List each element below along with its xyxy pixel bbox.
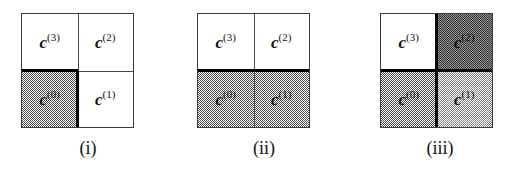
panel-ii-square: c(3) c(2) c(0) c(1) <box>197 13 310 128</box>
panel-iii: c(3) c(2) c(0) c(1) (iii) <box>352 0 527 181</box>
panel-i-caption: (i) <box>0 139 176 157</box>
panel-i-label-c3: c(3) <box>22 34 78 51</box>
panel-iii-label-c1: c(1) <box>437 91 493 108</box>
panel-iii-dashed-horizontal <box>437 69 493 72</box>
panel-i-quadrant-c2: c(2) <box>78 14 134 71</box>
panel-iii-boundary-bottom-c3 <box>381 69 437 72</box>
panel-i: c(3) c(2) c(0) c(1) (i) <box>0 0 176 181</box>
panel-i-boundary-right-c0 <box>76 71 79 128</box>
panel-iii-label-c2: c(2) <box>437 34 493 51</box>
panel-iii-quadrant-c3: c(3) <box>381 14 437 71</box>
panel-i-square: c(3) c(2) c(0) c(1) <box>21 13 134 128</box>
panel-iii-quadrant-c2: c(2) <box>437 14 493 71</box>
panel-iii-caption: (iii) <box>352 139 527 157</box>
panel-ii-boundary-horizontal <box>198 69 309 72</box>
panel-ii-label-c2: c(2) <box>254 34 310 51</box>
panel-iii-square: c(3) c(2) c(0) c(1) <box>380 13 493 128</box>
panel-iii-label-c0: c(0) <box>381 91 437 108</box>
panel-ii: c(3) c(2) c(0) c(1) (ii) <box>176 0 352 181</box>
panel-ii-label-c0: c(0) <box>198 91 254 108</box>
panel-ii-caption: (ii) <box>176 139 352 157</box>
panel-i-quadrant-c0: c(0) <box>22 71 78 128</box>
panel-i-quadrant-c1: c(1) <box>78 71 134 128</box>
panel-i-label-c0: c(0) <box>22 91 78 108</box>
panel-i-label-c1: c(1) <box>78 91 134 108</box>
panel-iii-boundary-right-c3 <box>435 14 438 71</box>
panel-iii-quadrant-c0: c(0) <box>381 71 437 128</box>
panel-ii-quadrant-c0: c(0) <box>198 71 254 128</box>
panel-i-quadrant-c3: c(3) <box>22 14 78 71</box>
panel-ii-quadrant-c1: c(1) <box>254 71 310 128</box>
panel-iii-dashed-vertical <box>435 71 438 128</box>
panel-ii-label-c3: c(3) <box>198 34 254 51</box>
panel-ii-quadrant-c2: c(2) <box>254 14 310 71</box>
figure-container: c(3) c(2) c(0) c(1) (i) c(3) <box>0 0 527 181</box>
panel-i-divider-horizontal-right <box>78 71 134 72</box>
panel-ii-quadrant-c3: c(3) <box>198 14 254 71</box>
panel-i-divider-vertical-top <box>78 14 79 71</box>
panel-iii-quadrant-c1: c(1) <box>437 71 493 128</box>
panel-i-label-c2: c(2) <box>78 34 134 51</box>
panel-iii-label-c3: c(3) <box>381 34 437 51</box>
panel-i-boundary-top-c0 <box>22 69 78 72</box>
panel-ii-label-c1: c(1) <box>254 91 310 108</box>
